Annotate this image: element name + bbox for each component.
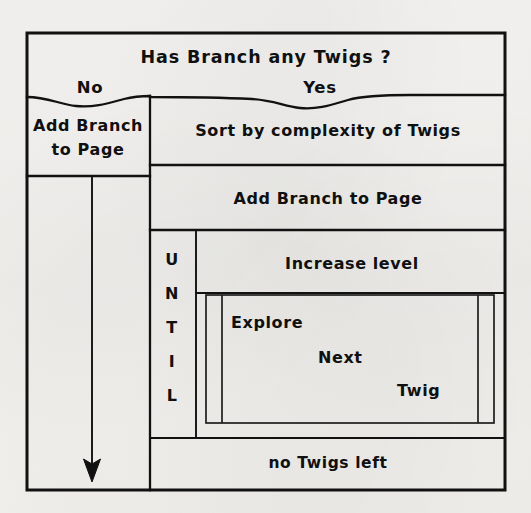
until-letter-4: L xyxy=(167,386,178,405)
until-letter-1: N xyxy=(165,284,179,303)
until-letter-3: I xyxy=(169,352,175,371)
structogram-diagram: Has Branch any Twigs ? No Yes Add Branch… xyxy=(0,0,531,513)
until-letter-0: U xyxy=(165,250,179,269)
structogram-svg: Has Branch any Twigs ? No Yes Add Branch… xyxy=(0,0,531,513)
add-branch-to-page-label: Add Branch to Page xyxy=(234,189,423,208)
no-add-branch-line1: Add Branch xyxy=(33,116,143,135)
downward-flow-arrow xyxy=(84,177,101,482)
until-letter-2: T xyxy=(166,318,177,337)
no-add-branch-line2: to Page xyxy=(52,140,125,159)
branch-label-yes: Yes xyxy=(302,78,337,97)
condition-title: Has Branch any Twigs ? xyxy=(140,47,391,67)
increase-level-label: Increase level xyxy=(285,254,419,273)
recursive-call-word-2: Next xyxy=(318,348,363,367)
recursive-call-word-1: Explore xyxy=(231,313,303,332)
decision-wavy-divider xyxy=(27,95,505,108)
until-condition-label: no Twigs left xyxy=(268,454,387,472)
sort-by-complexity-label: Sort by complexity of Twigs xyxy=(195,121,461,140)
recursive-call-word-3: Twig xyxy=(397,381,440,400)
branch-label-no: No xyxy=(77,78,104,97)
